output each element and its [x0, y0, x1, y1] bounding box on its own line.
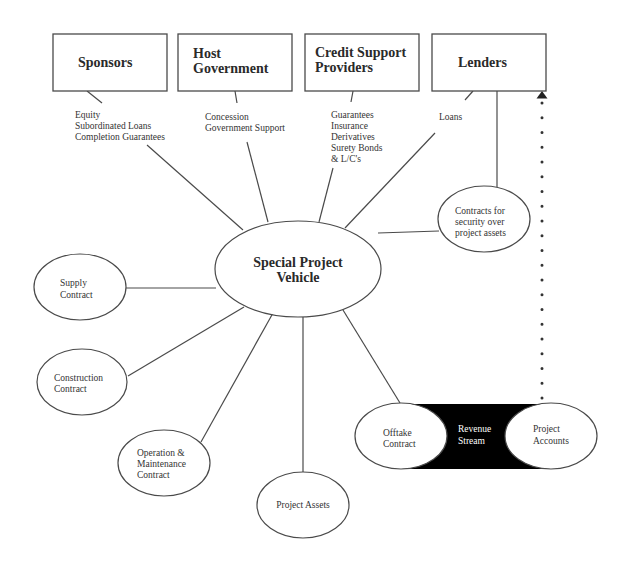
contribution-label: & L/C's: [331, 154, 361, 164]
node-om-contract: Operation & Maintenance Contract: [118, 430, 210, 496]
host-government-title-line-2: Government: [193, 61, 269, 76]
node-label: Contract: [383, 439, 416, 449]
credit-support-title-line-1: Credit Support: [315, 45, 406, 60]
party-lenders: Lenders: [432, 34, 546, 91]
arrow-up-icon: [537, 91, 548, 99]
node-label: project assets: [455, 228, 506, 238]
node-label: Contract: [60, 290, 93, 300]
contribution-label: Equity: [75, 110, 101, 120]
credit-to-spv-connector: [319, 168, 333, 222]
node-label: Contracts for: [455, 206, 506, 216]
spv-to-construction-connector: [128, 307, 244, 376]
node-label: Contract: [54, 384, 87, 394]
spv-to-om-connector: [201, 313, 273, 442]
node-label: Accounts: [533, 436, 569, 446]
contribution-label: Guarantees: [331, 110, 374, 120]
spv-to-security-connector: [378, 231, 439, 233]
node-security-contracts: Contracts for security over project asse…: [438, 186, 530, 252]
node-label: Supply: [60, 278, 87, 288]
party-host-government: Host Government: [178, 34, 292, 91]
lenders-to-label-connector: [465, 91, 473, 100]
node-label: Project Assets: [276, 500, 330, 510]
sponsors-title: Sponsors: [78, 55, 133, 70]
credit-to-label-connector: [351, 91, 353, 102]
contribution-label: Completion Guarantees: [75, 132, 165, 142]
special-project-vehicle: Special Project Vehicle: [215, 221, 381, 317]
party-credit-support: Credit Support Providers: [305, 34, 419, 91]
node-label: Operation &: [137, 448, 185, 458]
contribution-label: Subordinated Loans: [75, 121, 152, 131]
spv-label-line-1: Special Project: [253, 255, 343, 270]
contribution-label: Government Support: [205, 123, 285, 133]
repayment-flow-arrow: [537, 91, 548, 399]
node-project-assets: Project Assets: [257, 472, 349, 538]
lenders-contributions: Loans: [439, 112, 463, 122]
contribution-label: Loans: [439, 112, 463, 122]
node-supply-contract: Supply Contract: [34, 254, 126, 320]
revenue-stream-label-line-2: Stream: [458, 436, 486, 446]
sponsors-to-label-connector: [87, 91, 102, 103]
node-label: Project: [533, 424, 560, 434]
spv-label-line-2: Vehicle: [276, 270, 319, 285]
node-label: Maintenance: [137, 459, 186, 469]
node-construction-contract: Construction Contract: [37, 349, 127, 415]
project-finance-diagram: Sponsors Host Government Credit Support …: [0, 0, 631, 569]
contribution-label: Derivatives: [331, 132, 375, 142]
node-offtake-contract: Offtake Contract: [355, 403, 447, 469]
spv-to-offtake-connector: [343, 310, 400, 403]
credit-support-title-line-2: Providers: [315, 60, 374, 75]
host-government-title-line-1: Host: [193, 46, 221, 61]
revenue-stream-label-line-1: Revenue: [458, 424, 491, 434]
node-label: security over: [455, 217, 505, 227]
node-label: Construction: [54, 373, 103, 383]
party-sponsors: Sponsors: [53, 34, 167, 91]
contribution-label: Insurance: [331, 121, 368, 131]
node-label: Contract: [137, 470, 170, 480]
contribution-label: Concession: [205, 112, 249, 122]
host-to-label-connector: [235, 91, 237, 103]
sponsors-contributions: Equity Subordinated Loans Completion Gua…: [75, 110, 165, 142]
lenders-title: Lenders: [458, 55, 508, 70]
host-to-spv-connector: [247, 142, 268, 222]
contribution-label: Surety Bonds: [331, 143, 383, 153]
credit-support-contributions: Guarantees Insurance Derivatives Surety …: [331, 110, 383, 164]
node-project-accounts: Project Accounts: [505, 403, 597, 469]
host-government-contributions: Concession Government Support: [205, 112, 285, 133]
sponsors-to-spv-connector: [147, 145, 243, 230]
node-label: Offtake: [383, 428, 412, 438]
